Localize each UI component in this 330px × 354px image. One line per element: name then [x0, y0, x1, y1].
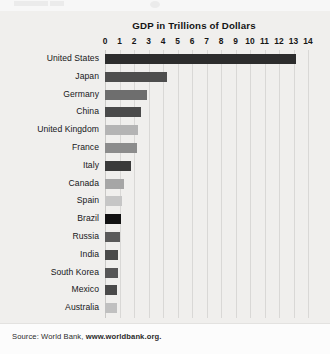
x-tick-label-14: 14 — [303, 36, 312, 46]
chart-row: Australia — [0, 299, 330, 317]
chart-row: India — [0, 246, 330, 264]
bar-japan — [105, 72, 167, 82]
chart-row: Mexico — [0, 281, 330, 299]
bar-track — [105, 157, 308, 175]
chart-row: Italy — [0, 157, 330, 175]
bar-mexico — [105, 285, 117, 295]
chart-row: Germany — [0, 86, 330, 104]
x-tick-label-10: 10 — [245, 36, 254, 46]
source-link: www.worldbank.org. — [86, 332, 162, 341]
category-label-france: France — [0, 139, 99, 157]
source-note: Source: World Bank, www.worldbank.org. — [12, 332, 161, 341]
category-label-japan: Japan — [0, 68, 99, 86]
category-label-germany: Germany — [0, 86, 99, 104]
chart-row: South Korea — [0, 264, 330, 282]
bar-spain — [105, 196, 122, 206]
category-label-united-kingdom: United Kingdom — [0, 121, 99, 139]
category-label-australia: Australia — [0, 299, 99, 317]
x-tick-label-8: 8 — [219, 36, 224, 46]
x-tick-label-6: 6 — [190, 36, 195, 46]
x-tick-label-3: 3 — [146, 36, 151, 46]
bar-united-kingdom — [105, 125, 138, 135]
category-label-india: India — [0, 246, 99, 264]
x-axis-tick-labels: 01234567891011121314 — [105, 36, 308, 48]
chart-row: Brazil — [0, 210, 330, 228]
bar-track — [105, 299, 308, 317]
bar-rows: United StatesJapanGermanyChinaUnited Kin… — [0, 50, 330, 318]
bar-italy — [105, 161, 131, 171]
x-tick-label-7: 7 — [204, 36, 209, 46]
bar-india — [105, 250, 118, 260]
chart-title: GDP in Trillions of Dollars — [0, 20, 330, 31]
bar-germany — [105, 90, 147, 100]
bar-track — [105, 210, 308, 228]
top-edge-artifact — [0, 0, 330, 11]
chart-figure: GDP in Trillions of Dollars 012345678910… — [0, 0, 330, 354]
x-tick-label-5: 5 — [175, 36, 180, 46]
bar-australia — [105, 303, 117, 313]
bar-russia — [105, 232, 120, 242]
chart-row: France — [0, 139, 330, 157]
chart-row: Russia — [0, 228, 330, 246]
category-label-canada: Canada — [0, 175, 99, 193]
bar-france — [105, 143, 137, 153]
x-tick-label-13: 13 — [289, 36, 298, 46]
bar-track — [105, 281, 308, 299]
chart-title-text: GDP in Trillions of Dollars — [74, 20, 255, 31]
category-label-russia: Russia — [0, 228, 99, 246]
x-tick-label-0: 0 — [103, 36, 108, 46]
bar-china — [105, 107, 141, 117]
x-tick-label-2: 2 — [132, 36, 137, 46]
category-label-china: China — [0, 103, 99, 121]
category-label-mexico: Mexico — [0, 281, 99, 299]
bar-brazil — [105, 214, 121, 224]
x-tick-label-9: 9 — [233, 36, 238, 46]
category-label-united-states: United States — [0, 50, 99, 68]
chart-row: United Kingdom — [0, 121, 330, 139]
bar-track — [105, 228, 308, 246]
bar-track — [105, 175, 308, 193]
category-label-spain: Spain — [0, 192, 99, 210]
bar-canada — [105, 179, 124, 189]
chart-row: China — [0, 103, 330, 121]
chart-row: Spain — [0, 192, 330, 210]
bar-track — [105, 192, 308, 210]
bar-united-states — [105, 54, 296, 64]
x-tick-label-12: 12 — [274, 36, 283, 46]
category-label-south-korea: South Korea — [0, 264, 99, 282]
x-tick-label-11: 11 — [260, 36, 269, 46]
x-tick-label-1: 1 — [117, 36, 122, 46]
chart-row: Canada — [0, 175, 330, 193]
bar-track — [105, 264, 308, 282]
x-tick-label-4: 4 — [161, 36, 166, 46]
category-label-brazil: Brazil — [0, 210, 99, 228]
category-label-italy: Italy — [0, 157, 99, 175]
bar-track — [105, 246, 308, 264]
bar-south-korea — [105, 268, 118, 278]
chart-row: United States — [0, 50, 330, 68]
source-prefix: Source: World Bank, — [12, 332, 86, 341]
chart-row: Japan — [0, 68, 330, 86]
